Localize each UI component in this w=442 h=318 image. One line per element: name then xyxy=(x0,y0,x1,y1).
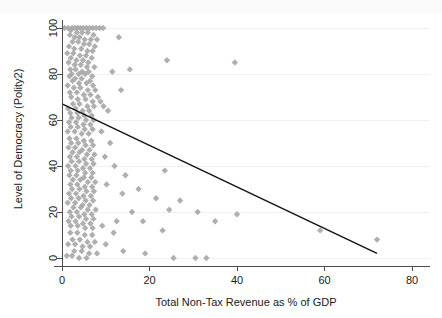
scatter-point xyxy=(194,209,200,215)
scatter-point xyxy=(203,255,209,261)
scatter-point xyxy=(73,172,79,178)
x-tick-label: 0 xyxy=(59,274,65,286)
scatter-point xyxy=(64,200,70,206)
regression-line xyxy=(62,104,377,254)
y-tick-label: 100 xyxy=(47,19,59,37)
scatter-point xyxy=(76,255,82,261)
scatter-point xyxy=(68,94,74,100)
scatter-point xyxy=(82,232,88,238)
scatter-point xyxy=(113,218,119,224)
scatter-point xyxy=(92,239,98,245)
scatter-point xyxy=(107,140,113,146)
y-tick-label: 60 xyxy=(47,114,59,126)
scatter-point xyxy=(64,82,70,88)
scatter-point xyxy=(64,50,70,56)
scatter-point xyxy=(89,55,95,61)
scatter-point xyxy=(192,255,198,261)
scatter-point xyxy=(91,64,97,70)
scatter-point xyxy=(119,190,125,196)
scatter-point xyxy=(89,232,95,238)
scatter-point xyxy=(110,230,116,236)
scatter-point xyxy=(103,241,109,247)
scatter-point xyxy=(77,236,83,242)
scatter-point xyxy=(177,197,183,203)
chart-figure: 020406080100020406080Total Non-Tax Reven… xyxy=(0,0,442,318)
y-tick-label: 80 xyxy=(47,68,59,80)
scatter-point xyxy=(135,186,141,192)
scatter-point xyxy=(164,57,170,63)
scatter-point xyxy=(103,181,109,187)
scatter-point xyxy=(88,174,94,180)
scatter-point xyxy=(212,218,218,224)
scatter-point xyxy=(153,195,159,201)
scatter-point xyxy=(102,154,108,160)
x-tick-label: 60 xyxy=(318,274,330,286)
scatter-point xyxy=(122,172,128,178)
y-tick-label: 40 xyxy=(47,160,59,172)
scatter-point xyxy=(91,103,97,109)
scatter-point xyxy=(232,59,238,65)
scatter-point xyxy=(85,131,91,137)
scatter-point xyxy=(67,230,73,236)
scatter-point xyxy=(127,66,133,72)
scatter-point xyxy=(118,87,124,93)
scatter-point xyxy=(111,163,117,169)
y-tick-label: 20 xyxy=(47,206,59,218)
scatter-point xyxy=(98,128,104,134)
scatter-point xyxy=(120,248,126,254)
scatter-point xyxy=(116,34,122,40)
scatter-point xyxy=(129,209,135,215)
scatter-point xyxy=(162,167,168,173)
x-tick-label: 80 xyxy=(406,274,418,286)
scatter-point xyxy=(100,25,106,31)
scatter-point xyxy=(67,89,73,95)
scatter-point xyxy=(65,241,71,247)
scatter-point xyxy=(140,218,146,224)
scatter-point xyxy=(74,230,80,236)
scatter-point xyxy=(94,250,100,256)
scatter-point xyxy=(374,236,380,242)
scatter-point xyxy=(94,36,100,42)
scatter-point xyxy=(159,227,165,233)
scatter-point xyxy=(105,108,111,114)
scatter-point xyxy=(89,98,95,104)
scatter-point xyxy=(78,248,84,254)
scatter-point xyxy=(66,172,72,178)
scatter-point xyxy=(75,39,81,45)
x-axis-title: Total Non-Tax Revenue as % of GDP xyxy=(156,296,337,308)
y-tick-label: 0 xyxy=(47,255,59,261)
scatter-point xyxy=(170,255,176,261)
scatter-point xyxy=(142,250,148,256)
scatter-point xyxy=(99,223,105,229)
x-tick-label: 20 xyxy=(143,274,155,286)
scatter-point xyxy=(77,85,83,91)
y-axis-title: Level of Democracy (Polity2) xyxy=(12,69,24,210)
scatter-point xyxy=(79,243,85,249)
scatter-plot: 020406080100020406080Total Non-Tax Reven… xyxy=(0,0,442,318)
x-tick-label: 40 xyxy=(231,274,243,286)
